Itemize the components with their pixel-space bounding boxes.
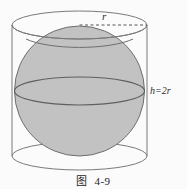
figure-caption: 图 4-9 (0, 172, 187, 188)
sphere-body (15, 26, 145, 156)
radius-label: r (102, 11, 106, 22)
height-label: h=2r (150, 86, 171, 96)
figure-container: r h=2r 图 4-9 (0, 0, 187, 189)
